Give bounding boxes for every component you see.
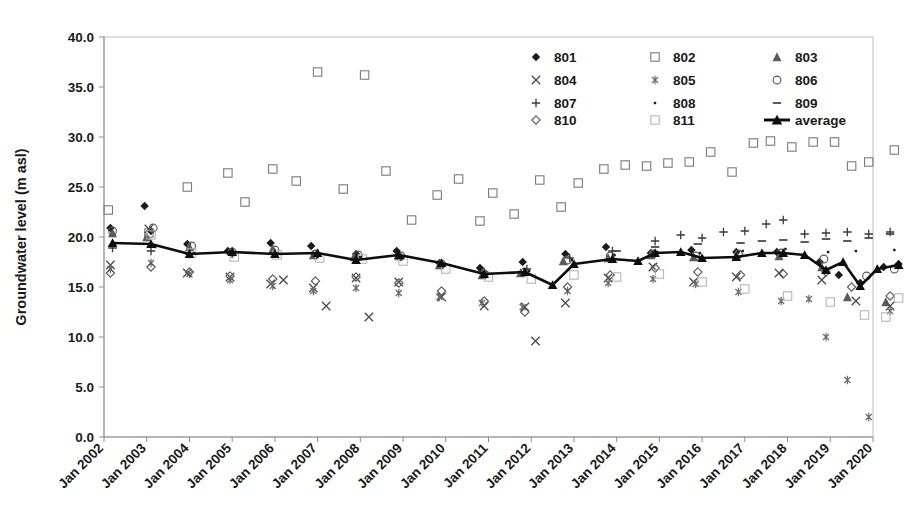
- y-tick-label: 15.0: [68, 280, 94, 295]
- marker-plus: [886, 228, 894, 236]
- legend-label-802: 802: [673, 50, 696, 65]
- chart-canvas: 0.05.010.015.020.025.030.035.040.0 Jan 2…: [0, 0, 910, 522]
- plot-background: [104, 37, 873, 437]
- marker-open-diamond: [886, 292, 894, 300]
- legend-label-804: 804: [554, 73, 577, 88]
- marker-open-square: [890, 146, 898, 154]
- marker-small-dot: [613, 254, 615, 256]
- x-axis: Jan 2002Jan 2003Jan 2004Jan 2005Jan 2006…: [55, 437, 875, 491]
- legend-label-806: 806: [795, 73, 818, 88]
- y-tick-label: 35.0: [68, 80, 94, 95]
- legend-label-801: 801: [554, 50, 577, 65]
- x-tick-label: Jan 2015: [611, 440, 662, 491]
- x-tick-label: Jan 2012: [482, 441, 533, 492]
- legend-label-803: 803: [795, 50, 818, 65]
- x-tick-label: Jan 2002: [55, 441, 106, 492]
- marker-small-dot: [893, 249, 895, 251]
- x-tick-label: Jan 2014: [568, 440, 619, 491]
- x-tick-label: Jan 2018: [739, 440, 790, 491]
- legend-label-809: 809: [795, 96, 818, 111]
- x-tick-label: Jan 2006: [226, 440, 277, 491]
- x-tick-label: Jan 2011: [440, 440, 491, 491]
- y-tick-label: 10.0: [68, 330, 94, 345]
- y-tick-label: 20.0: [68, 230, 94, 245]
- marker-small-dot: [827, 251, 829, 253]
- marker-small-dot: [699, 252, 701, 254]
- y-axis-title-text: Groundwater level (m asl): [13, 148, 29, 325]
- legend-label-808: 808: [673, 96, 696, 111]
- x-tick-label: Jan 2016: [653, 440, 704, 491]
- legend-label-810: 810: [554, 113, 577, 128]
- y-axis: 0.05.010.015.020.025.030.035.040.0: [68, 30, 104, 445]
- marker-small-dot: [571, 259, 573, 261]
- y-tick-label: 30.0: [68, 130, 94, 145]
- marker-small-dot: [528, 270, 530, 272]
- x-tick-label: Jan 2008: [312, 440, 363, 491]
- x-tick-label: Jan 2017: [696, 441, 747, 492]
- y-axis-title: Groundwater level (m asl): [13, 148, 29, 325]
- x-tick-label: Jan 2020: [824, 441, 875, 492]
- groundwater-level-chart: 0.05.010.015.020.025.030.035.040.0 Jan 2…: [0, 0, 910, 522]
- x-tick-label: Jan 2019: [781, 441, 832, 492]
- x-tick-label: Jan 2013: [525, 440, 576, 491]
- y-tick-label: 40.0: [68, 30, 94, 45]
- legend-label-807: 807: [554, 96, 577, 111]
- x-tick-label: Jan 2010: [397, 441, 448, 492]
- marker-small-dot: [784, 248, 786, 250]
- legend-label-average: average: [795, 113, 847, 128]
- x-tick-label: Jan 2007: [269, 441, 320, 492]
- marker-small-dot: [741, 250, 743, 252]
- x-tick-label: Jan 2003: [98, 440, 149, 491]
- marker-small-dot: [654, 102, 656, 104]
- y-tick-label: 0.0: [75, 430, 94, 445]
- y-tick-label: 25.0: [68, 180, 94, 195]
- marker-open-square-light: [882, 313, 890, 321]
- y-tick-label: 5.0: [75, 380, 94, 395]
- marker-small-dot: [855, 250, 857, 252]
- legend-label-805: 805: [673, 73, 696, 88]
- x-tick-label: Jan 2009: [354, 441, 405, 492]
- x-tick-label: Jan 2004: [141, 440, 192, 491]
- marker-open-square-light: [894, 294, 902, 302]
- x-tick-label: Jan 2005: [183, 440, 234, 491]
- legend-label-811: 811: [673, 113, 695, 128]
- marker-small-dot: [359, 256, 361, 258]
